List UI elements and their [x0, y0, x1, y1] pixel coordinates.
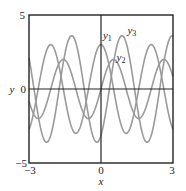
label-y1: y1	[102, 29, 112, 43]
label-y3: y3	[126, 24, 136, 38]
line-chart: 5 0 −5 −3 0 3 x y y1y2y3	[0, 0, 186, 191]
x-tick-right: 3	[169, 164, 175, 176]
y-axis-label: y	[9, 83, 15, 95]
y-tick-top: 5	[20, 9, 26, 21]
x-tick-left: −3	[24, 164, 36, 176]
x-axis-label: x	[98, 175, 104, 187]
label-y2: y2	[116, 51, 126, 65]
y-tick-zero: 0	[21, 83, 27, 95]
